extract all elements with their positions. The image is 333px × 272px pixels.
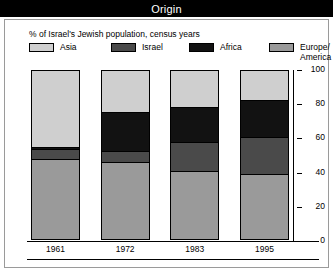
bar-segment-europe-america-1983 — [171, 172, 218, 239]
legend-label-europe-america: Europe/ America — [300, 42, 331, 62]
y-axis-ticks: 100806040200 — [297, 64, 329, 248]
plot-area — [31, 70, 289, 240]
legend-label-israel: Israel — [142, 42, 163, 52]
bar-segment-africa-1983 — [171, 108, 218, 143]
x-tick-label-1983: 1983 — [170, 244, 219, 258]
legend-item-asia[interactable]: Asia — [29, 42, 77, 52]
chart-legend: Asia Israel Africa Europe/ America — [29, 42, 319, 64]
x-axis-baseline — [27, 259, 319, 260]
legend-swatch-europe-america — [269, 43, 294, 52]
bar-segment-israel-1972 — [102, 152, 149, 164]
x-axis-line — [27, 241, 319, 242]
chart-panel: % of Israel's Jewish population, census … — [4, 19, 329, 268]
bar-segment-israel-1961 — [32, 150, 79, 160]
x-axis-labels: 1961197219831995 — [31, 244, 289, 258]
bar-group — [31, 70, 289, 240]
bar-1995[interactable] — [240, 70, 289, 240]
x-tick-label-1972: 1972 — [101, 244, 150, 258]
bar-segment-europe-america-1961 — [32, 160, 79, 239]
bar-1972[interactable] — [101, 70, 150, 240]
legend-swatch-africa — [189, 43, 214, 52]
legend-item-africa[interactable]: Africa — [189, 42, 242, 52]
window-title-bar: Origin — [0, 0, 333, 17]
bar-segment-asia-1995 — [241, 71, 288, 101]
y-tick-label-80: 80 — [305, 98, 325, 108]
legend-swatch-asia — [29, 43, 54, 52]
bar-segment-asia-1961 — [32, 71, 79, 148]
y-tick-mark-80 — [297, 104, 302, 105]
bar-segment-asia-1983 — [171, 71, 218, 108]
y-tick-label-100: 100 — [305, 64, 325, 74]
bar-segment-europe-america-1972 — [102, 163, 149, 239]
bar-segment-europe-america-1995 — [241, 175, 288, 239]
legend-label-asia: Asia — [60, 42, 77, 52]
page-title: Origin — [151, 3, 182, 15]
y-tick-label-40: 40 — [305, 167, 325, 177]
y-tick-mark-100 — [297, 70, 302, 71]
bar-segment-africa-1995 — [241, 101, 288, 138]
y-tick-label-60: 60 — [305, 132, 325, 142]
legend-item-europe-america[interactable]: Europe/ America — [269, 42, 331, 62]
x-tick-label-1995: 1995 — [240, 244, 289, 258]
chart-subtitle: % of Israel's Jewish population, census … — [29, 29, 200, 39]
legend-swatch-israel — [111, 43, 136, 52]
bar-segment-africa-1972 — [102, 113, 149, 152]
chart-screenshot: Origin % of Israel's Jewish population, … — [0, 0, 333, 272]
legend-label-africa: Africa — [220, 42, 242, 52]
y-axis-line — [293, 70, 294, 241]
bar-segment-israel-1983 — [171, 143, 218, 172]
bar-1961[interactable] — [31, 70, 80, 240]
y-tick-label-20: 20 — [305, 201, 325, 211]
y-tick-mark-0 — [297, 241, 302, 242]
y-tick-label-0: 0 — [305, 235, 325, 245]
bar-segment-israel-1995 — [241, 138, 288, 175]
y-tick-mark-40 — [297, 173, 302, 174]
y-tick-mark-20 — [297, 207, 302, 208]
bar-segment-asia-1972 — [102, 71, 149, 113]
legend-item-israel[interactable]: Israel — [111, 42, 163, 52]
bar-1983[interactable] — [170, 70, 219, 240]
y-tick-mark-60 — [297, 138, 302, 139]
x-tick-label-1961: 1961 — [31, 244, 80, 258]
